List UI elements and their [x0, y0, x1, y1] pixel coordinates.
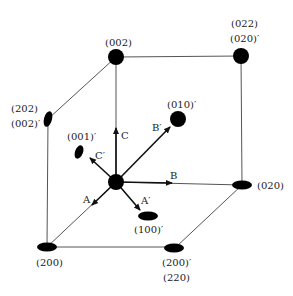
label-002-prime: (002)′ [11, 118, 40, 130]
axis-arrows [90, 127, 172, 210]
label-100-prime: (100)′ [134, 224, 163, 236]
node-origin [108, 174, 124, 190]
lattice-diagram: (002) (022) (020)′ (202) (002)′ (010)′ (… [0, 0, 293, 296]
axis-b-arrow [116, 182, 172, 183]
node-010-prime [170, 111, 186, 127]
label-002: (002) [105, 37, 132, 49]
label-220: (220) [163, 272, 190, 284]
axis-label-a: A [83, 194, 90, 206]
label-022: (022) [231, 18, 258, 30]
label-202: (202) [11, 103, 38, 115]
node-001-prime [73, 144, 85, 160]
axis-label-a-prime: A′ [141, 195, 151, 207]
node-220 [164, 244, 184, 253]
label-010-prime: (010)′ [167, 99, 196, 111]
node-002 [108, 49, 124, 65]
node-020 [232, 181, 252, 190]
node-100-prime [138, 212, 158, 221]
label-001-prime: (001)′ [67, 131, 96, 143]
node-022 [233, 48, 249, 64]
label-200: (200) [36, 257, 63, 269]
axis-label-c-prime: C′ [95, 150, 105, 162]
axis-label-b-prime: B′ [152, 122, 162, 134]
label-020: (020) [257, 180, 284, 192]
axis-label-c: C [121, 130, 129, 142]
node-202 [42, 110, 54, 128]
node-200 [37, 243, 57, 252]
lattice-nodes [37, 48, 252, 253]
label-020-prime: (020)′ [230, 33, 259, 45]
axis-label-b: B [170, 170, 177, 182]
label-200-prime: (200)′ [162, 257, 191, 269]
